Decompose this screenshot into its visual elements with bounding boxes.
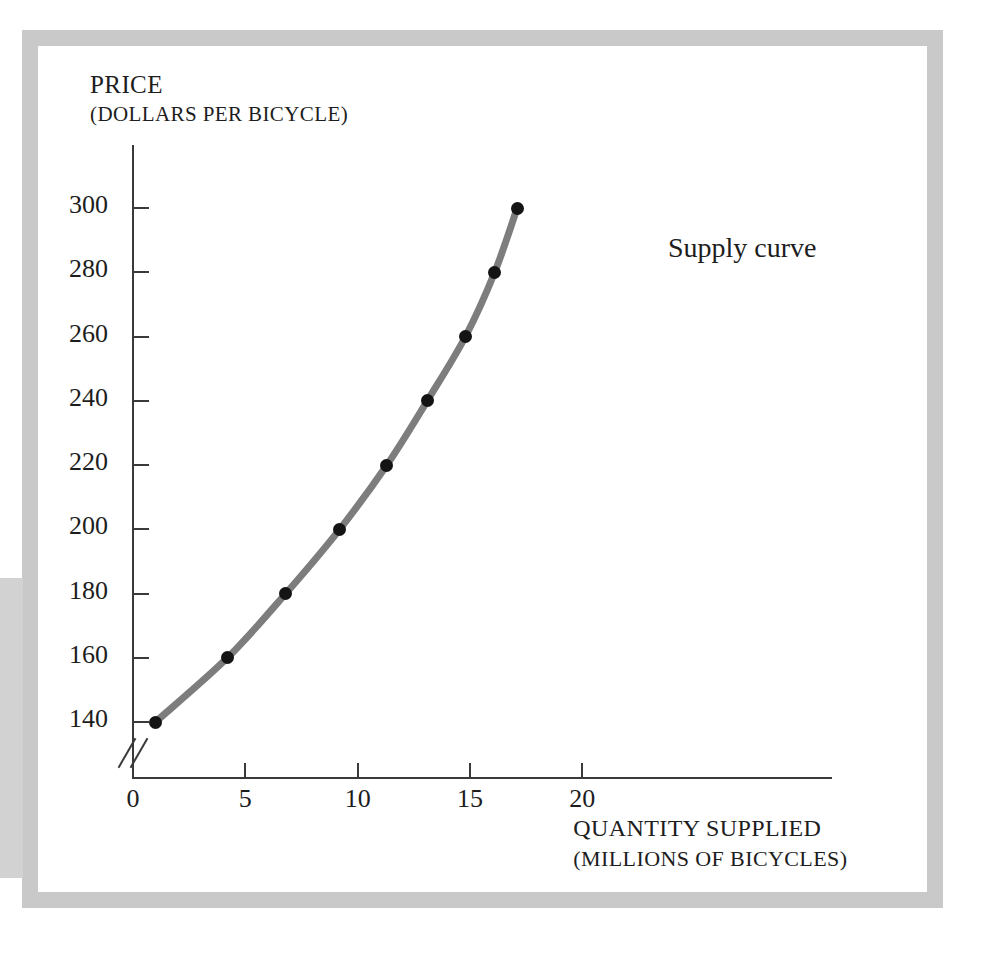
data-point (459, 330, 472, 343)
supply-curve (0, 0, 985, 962)
data-point (421, 394, 434, 407)
series-annotation-label: Supply curve (668, 232, 817, 264)
data-point (511, 202, 524, 215)
figure-page: 140160180200220240260280300 05101520 PRI… (0, 0, 985, 962)
data-point (488, 266, 501, 279)
data-point (333, 523, 346, 536)
data-point (380, 459, 393, 472)
plot-area: 140160180200220240260280300 05101520 PRI… (0, 0, 985, 962)
data-point (149, 716, 162, 729)
